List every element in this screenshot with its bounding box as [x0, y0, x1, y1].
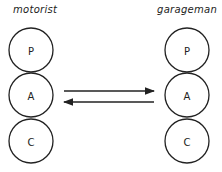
motorist-parent-letter: P: [28, 46, 34, 57]
motorist-child-letter: C: [28, 137, 35, 148]
garageman-ego-states: P A C: [165, 28, 209, 163]
motorist-ego-states: P A C: [9, 28, 53, 163]
garageman-child-letter: C: [184, 137, 191, 148]
transaction-diagram: P A C P A C: [0, 0, 222, 172]
garageman-parent-letter: P: [184, 46, 190, 57]
garageman-adult-letter: A: [184, 91, 191, 102]
motorist-adult-letter: A: [28, 91, 35, 102]
